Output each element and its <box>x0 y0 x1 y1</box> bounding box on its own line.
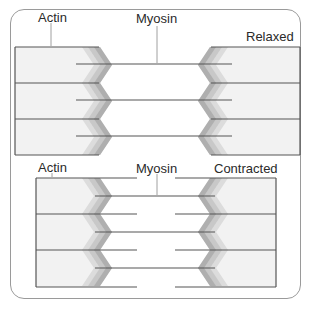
relaxed-actin-label: Actin <box>38 11 67 24</box>
contracted-state-label: Contracted <box>214 162 278 175</box>
left-actin-band <box>15 47 99 155</box>
right-actin-band <box>211 47 300 155</box>
relaxed-state-label: Relaxed <box>246 30 294 43</box>
contracted-myosin-label: Myosin <box>136 162 177 175</box>
contracted-sarcomere <box>36 173 276 287</box>
myosin-filaments <box>95 196 215 268</box>
sarcomere-diagram <box>0 0 309 309</box>
left-actin-band <box>36 178 100 287</box>
contracted-actin-label: Actin <box>38 161 67 174</box>
right-actin-band <box>211 178 276 287</box>
relaxed-myosin-label: Myosin <box>136 12 177 25</box>
